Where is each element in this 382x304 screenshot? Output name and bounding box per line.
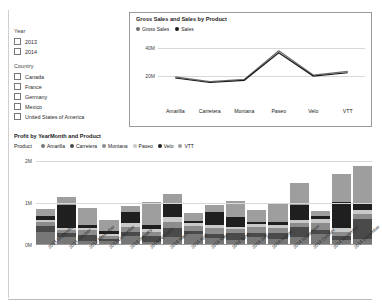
bar-segment-vtt[interactable] <box>205 205 224 213</box>
legend-item-sales[interactable]: Sales <box>175 26 194 32</box>
line-x-tick-label: Montana <box>227 108 262 114</box>
legend-item-montana[interactable]: Montana <box>102 143 127 149</box>
bar-segment-vtt[interactable] <box>353 166 372 203</box>
bar-gridline <box>36 161 372 162</box>
bar-chart-legend: Product AmarillaCarreteraMontanaPaseoVel… <box>14 143 372 149</box>
filter-group-year: Year20132014 <box>14 28 122 56</box>
legend-swatch-icon <box>70 144 74 148</box>
line-chart-x-axis: AmarillaCarreteraMontanaPaseoVeloVTT <box>158 108 365 114</box>
legend-label: Velo <box>164 143 174 149</box>
filter-group-title: Year <box>14 28 122 34</box>
bar-chart-y-axis: 0M1M2M <box>14 153 34 245</box>
line-x-tick-label: Amarilla <box>158 108 193 114</box>
legend-item-velo[interactable]: Velo <box>158 143 174 149</box>
bar-segment-velo[interactable] <box>163 203 182 217</box>
legend-item-paseo[interactable]: Paseo <box>133 143 153 149</box>
bar-segment-vtt[interactable] <box>163 194 182 203</box>
dashboard-root: Year20132014CountryCanadaFranceGermanyMe… <box>0 0 382 304</box>
bar-column[interactable] <box>226 153 245 245</box>
filter-group-title: Country <box>14 63 122 69</box>
checkbox-icon[interactable] <box>14 93 21 100</box>
bar-y-tick-label: 2M <box>25 158 32 164</box>
bar-segment-vtt[interactable] <box>78 208 97 226</box>
line-y-tick-label: 40M <box>133 45 155 51</box>
line-chart-title: Gross Sales and Sales by Product <box>136 16 227 22</box>
filter-option-france[interactable]: France <box>14 82 122 91</box>
legend-swatch-icon <box>175 27 179 31</box>
bar-segment-velo[interactable] <box>353 203 372 211</box>
bar-segment-velo[interactable] <box>290 205 309 220</box>
filter-option-canada[interactable]: Canada <box>14 72 122 81</box>
filter-option-2013[interactable]: 2013 <box>14 37 122 46</box>
bar-segment-vtt[interactable] <box>268 204 287 222</box>
checkbox-icon[interactable] <box>14 73 21 80</box>
filter-option-label: 2013 <box>25 39 37 45</box>
bar-segment-vtt[interactable] <box>121 206 140 213</box>
bar-legend-caption: Product <box>14 143 32 149</box>
filter-option-united-states-of-america[interactable]: United States of America <box>14 112 122 121</box>
legend-label: Amarilla <box>47 143 65 149</box>
line-x-tick-label: Velo <box>296 108 331 114</box>
bar-segment-vtt[interactable] <box>290 183 309 205</box>
legend-label: Sales <box>181 26 194 32</box>
bar-column[interactable] <box>36 153 55 245</box>
filter-option-label: Germany <box>25 94 47 100</box>
checkbox-icon[interactable] <box>14 83 21 90</box>
line-chart-legend: Gross SalesSales <box>136 26 194 32</box>
legend-label: VTT <box>184 143 193 149</box>
page-bottom-rule <box>8 299 372 300</box>
legend-item-carretera[interactable]: Carretera <box>70 143 97 149</box>
bar-chart-section: Profit by YearMonth and Product Product … <box>14 133 372 289</box>
bar-segment-vtt[interactable] <box>142 202 161 225</box>
legend-label: Paseo <box>139 143 153 149</box>
legend-item-vtt[interactable]: VTT <box>178 143 193 149</box>
bar-segment-velo[interactable] <box>226 217 245 226</box>
legend-item-amarilla[interactable]: Amarilla <box>41 143 65 149</box>
filter-option-label: 2014 <box>25 49 37 55</box>
bar-y-tick-label: 0M <box>25 242 32 248</box>
bar-segment-vtt[interactable] <box>247 210 266 222</box>
bar-chart-x-axis: 2013 September2013 October2013 November2… <box>36 245 372 289</box>
bar-chart-title: Profit by YearMonth and Product <box>14 133 372 139</box>
filter-option-mexico[interactable]: Mexico <box>14 102 122 111</box>
line-chart-plot: 20M40M <box>158 37 365 103</box>
bar-segment-vtt[interactable] <box>36 209 55 216</box>
bar-y-tick-label: 1M <box>25 200 32 206</box>
legend-swatch-icon <box>136 27 140 31</box>
legend-label: Montana <box>108 143 127 149</box>
checkbox-icon[interactable] <box>14 103 21 110</box>
page-left-rule <box>8 10 9 298</box>
filter-option-germany[interactable]: Germany <box>14 92 122 101</box>
bar-column[interactable] <box>268 153 287 245</box>
filter-option-2014[interactable]: 2014 <box>14 47 122 56</box>
bar-legend-items: AmarillaCarreteraMontanaPaseoVeloVTT <box>41 143 194 149</box>
bar-gridline <box>36 203 372 204</box>
bar-segment-velo[interactable] <box>121 212 140 223</box>
bar-segment-vtt[interactable] <box>184 213 203 221</box>
filter-option-label: France <box>25 84 42 90</box>
legend-item-gross-sales[interactable]: Gross Sales <box>136 26 169 32</box>
bar-segment-carretera[interactable] <box>36 226 55 233</box>
filter-group-country: CountryCanadaFranceGermanyMexicoUnited S… <box>14 63 122 121</box>
checkbox-icon[interactable] <box>14 38 21 45</box>
bar-segment-velo[interactable] <box>332 202 351 228</box>
bar-column[interactable] <box>247 153 266 245</box>
checkbox-icon[interactable] <box>14 48 21 55</box>
filter-option-label: United States of America <box>25 114 84 120</box>
legend-swatch-icon <box>178 144 182 148</box>
line-y-tick-label: 20M <box>133 73 155 79</box>
line-x-tick-label: Paseo <box>262 108 297 114</box>
filter-option-label: Mexico <box>25 104 42 110</box>
line-x-tick-label: VTT <box>331 108 366 114</box>
legend-swatch-icon <box>102 144 106 148</box>
bar-segment-vtt[interactable] <box>332 174 351 202</box>
bar-column[interactable] <box>205 153 224 245</box>
legend-label: Gross Sales <box>142 26 169 32</box>
legend-swatch-icon <box>41 144 45 148</box>
checkbox-icon[interactable] <box>14 113 21 120</box>
line-series-graphic <box>158 37 365 103</box>
filter-option-label: Canada <box>25 74 44 80</box>
bar-segment-vtt[interactable] <box>57 197 76 205</box>
filter-panel: Year20132014CountryCanadaFranceGermanyMe… <box>14 28 122 128</box>
bar-segment-velo[interactable] <box>205 212 224 225</box>
